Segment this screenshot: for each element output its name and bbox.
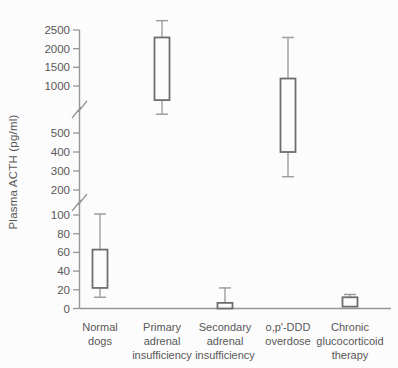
y-tick-label: 400 [51,146,70,158]
boxplot [93,214,108,297]
x-category-label: adrenal [207,335,244,347]
x-category-label: therapy [332,349,369,361]
y-tick-label: 80 [57,228,70,240]
acth-boxplot-figure: 0204060801002003004005001000150020002500… [0,0,398,368]
boxplot-series [93,21,358,309]
y-tick-label: 0 [64,303,70,315]
y-tick-label: 20 [57,284,70,296]
y-tick-label: 1000 [44,80,70,92]
y-tick-label: 2500 [44,24,70,36]
x-category-label: overdose [265,335,310,347]
boxplot [218,288,233,309]
x-category-label: dogs [88,335,112,347]
y-tick-label: 500 [51,127,70,139]
x-category-label: Primary [143,321,181,333]
x-category-label: insufficiency [132,349,192,361]
box [343,297,358,306]
boxplot [281,37,296,176]
y-tick-label: 1500 [44,61,70,73]
boxplot [343,294,358,306]
x-category-label: o,p'-DDD [266,321,311,333]
x-category-label: adrenal [144,335,181,347]
box [93,250,108,288]
x-category-label: glucocorticoid [316,335,383,347]
box [218,303,233,309]
y-tick-label: 60 [57,246,70,258]
y-axis-title: Plasma ACTH (pg/ml) [7,115,19,230]
box [281,79,296,152]
y-tick-label: 200 [51,184,70,196]
y-tick-label: 300 [51,165,70,177]
chart-canvas: 0204060801002003004005001000150020002500… [0,0,398,368]
y-tick-label: 2000 [44,43,70,55]
boxplot [155,21,170,115]
y-tick-label: 40 [57,265,70,277]
x-category-label: Chronic [331,321,369,333]
x-category-label: Normal [82,321,117,333]
x-category-label: insufficiency [195,349,255,361]
y-tick-label: 100 [51,209,70,221]
x-axis-labels: NormaldogsPrimaryadrenalinsufficiencySec… [82,321,383,361]
box [155,37,170,100]
x-category-label: Secondary [199,321,252,333]
